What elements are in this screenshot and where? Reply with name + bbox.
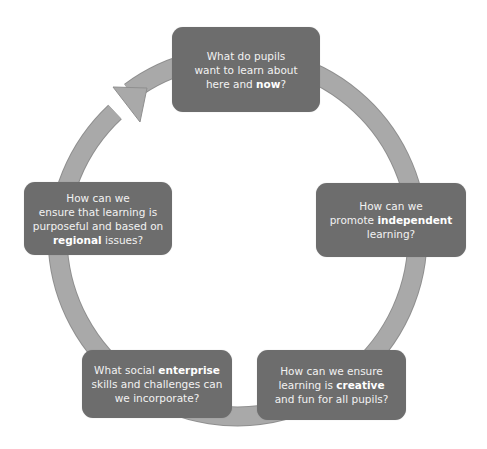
node-top-line-2: want to learn about [194, 63, 297, 77]
node-bottom-left: What social enterprise skills and challe… [82, 350, 232, 418]
node-right-line-1: How can we [330, 199, 453, 213]
node-top-line-1: What do pupils [194, 49, 297, 63]
node-bottom-right-line-3: and fun for all pupils? [275, 392, 389, 406]
node-bottom-right-line-2: learning is creative [275, 378, 389, 392]
node-left-line-4: regional issues? [33, 233, 163, 247]
node-bottom-left-line-2: skills and challenges can [92, 377, 223, 391]
node-left-line-2: ensure that learning is [33, 205, 163, 219]
node-bottom-right-line-1: How can we ensure [275, 364, 389, 378]
node-right-line-2: promote independent [330, 213, 453, 227]
node-left: How can we ensure that learning is purpo… [24, 182, 172, 255]
node-bottom-right: How can we ensure learning is creative a… [257, 350, 406, 420]
node-top: What do pupils want to learn about here … [172, 27, 320, 112]
node-right-line-3: learning? [330, 227, 453, 241]
node-bottom-left-line-3: we incorporate? [92, 391, 223, 405]
node-top-line-3: here and now? [194, 77, 297, 91]
node-left-line-3: purposeful and based on [33, 219, 163, 233]
node-right: How can we promote independent learning? [316, 183, 466, 257]
node-left-line-1: How can we [33, 191, 163, 205]
node-bottom-left-line-1: What social enterprise [92, 363, 223, 377]
